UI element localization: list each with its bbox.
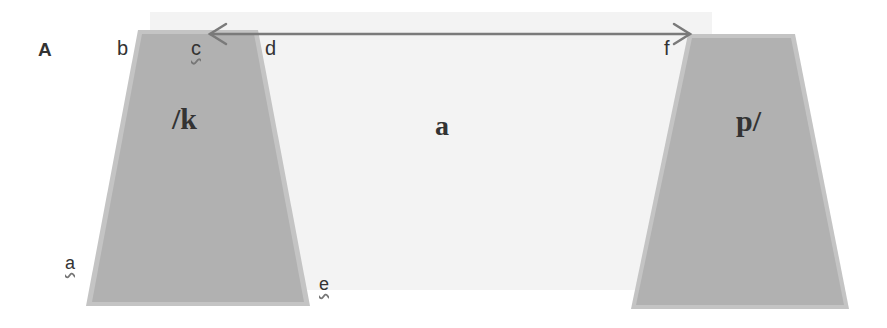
- diagram-canvas: A b c d f a e /k a p/: [0, 0, 887, 328]
- left-block-label: /k: [172, 104, 197, 134]
- diagram-shapes: [0, 0, 887, 328]
- corner-label-c: c: [191, 38, 201, 58]
- corner-label-e: e: [319, 275, 329, 293]
- corner-label-b: b: [117, 38, 128, 58]
- panel-label: A: [38, 40, 52, 59]
- gap-label: a: [435, 112, 449, 140]
- right-block-label: p/: [736, 106, 761, 136]
- corner-label-d: d: [265, 38, 276, 58]
- corner-label-a: a: [65, 254, 75, 272]
- corner-label-f: f: [664, 38, 670, 58]
